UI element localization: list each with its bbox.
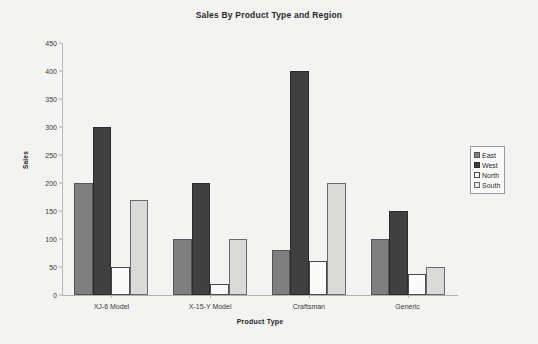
x-axis-tick-label: X-15-Y Model [161, 303, 260, 310]
y-axis-label: Sales [22, 151, 29, 169]
x-axis-tick-mark [408, 295, 409, 298]
bar-south-1[interactable] [229, 239, 248, 295]
legend-swatch-icon [474, 152, 480, 158]
legend-swatch-icon [474, 162, 480, 168]
bar-west-1[interactable] [192, 183, 211, 295]
chart-container: Sales By Product Type and Region Sales 0… [0, 0, 538, 344]
legend-label: East [482, 152, 496, 159]
x-axis-tick-label: XJ-6 Model [62, 303, 161, 310]
chart-title: Sales By Product Type and Region [0, 10, 538, 20]
x-axis-line [62, 295, 458, 296]
legend-label: North [482, 172, 499, 179]
bar-west-0[interactable] [93, 127, 112, 295]
bar-north-0[interactable] [111, 267, 130, 295]
plot-area: 050100150200250300350400450XJ-6 ModelX-1… [62, 43, 457, 295]
x-axis-tick-mark [309, 295, 310, 298]
bar-east-0[interactable] [74, 183, 93, 295]
legend-label: West [482, 162, 498, 169]
legend-item-north[interactable]: North [474, 170, 500, 180]
x-axis-tick-label: Generic [358, 303, 457, 310]
bar-east-1[interactable] [173, 239, 192, 295]
bar-west-2[interactable] [290, 71, 309, 295]
x-axis-tick-mark [210, 295, 211, 298]
legend-label: South [482, 182, 500, 189]
legend-item-south[interactable]: South [474, 180, 500, 190]
chart-legend: EastWestNorthSouth [470, 146, 505, 194]
bar-north-1[interactable] [210, 284, 229, 295]
bar-west-3[interactable] [389, 211, 408, 295]
legend-item-west[interactable]: West [474, 160, 500, 170]
bar-south-3[interactable] [426, 267, 445, 295]
legend-item-east[interactable]: East [474, 150, 500, 160]
bar-north-3[interactable] [408, 274, 427, 295]
bar-south-2[interactable] [327, 183, 346, 295]
x-axis-label: Product Type [62, 318, 458, 325]
bar-east-3[interactable] [371, 239, 390, 295]
x-axis-tick-label: Craftsman [260, 303, 359, 310]
x-axis-tick-mark [111, 295, 112, 298]
bar-group: X-15-Y Model [161, 43, 260, 295]
bar-group: XJ-6 Model [62, 43, 161, 295]
bar-group: Generic [358, 43, 457, 295]
bar-south-0[interactable] [130, 200, 149, 295]
legend-swatch-icon [474, 172, 480, 178]
bar-east-2[interactable] [272, 250, 291, 295]
legend-swatch-icon [474, 182, 480, 188]
bar-north-2[interactable] [309, 261, 328, 295]
bar-group: Craftsman [260, 43, 359, 295]
